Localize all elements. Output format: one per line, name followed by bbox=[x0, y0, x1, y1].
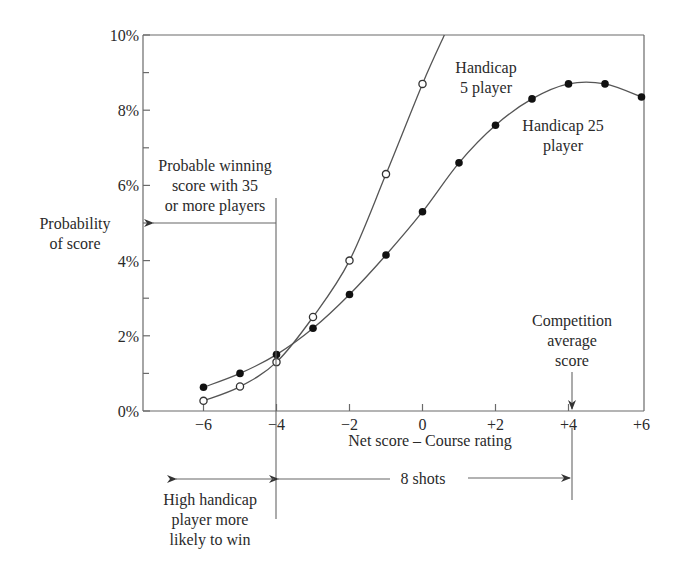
x-axis-label: Net score – Course rating bbox=[348, 432, 512, 450]
x-tick-label: +4 bbox=[560, 416, 577, 433]
handicap-5-label-line1: Handicap bbox=[455, 59, 516, 77]
y-axis-label-line2: of score bbox=[49, 235, 100, 252]
handicap-25-label-line1: Handicap 25 bbox=[522, 117, 603, 135]
high-handicap-line2: player more bbox=[172, 511, 249, 529]
high-handicap-line3: likely to win bbox=[170, 531, 251, 549]
y-ticks: 0%2%4%6%8%10% bbox=[110, 27, 150, 420]
x-tick-label: +6 bbox=[633, 416, 650, 433]
open-circle-marker-icon bbox=[419, 80, 426, 87]
filled-circle-marker-icon bbox=[382, 251, 390, 259]
filled-circle-marker-icon bbox=[309, 324, 317, 332]
probable-winning-line2: score with 35 bbox=[172, 177, 258, 194]
open-circle-marker-icon bbox=[346, 257, 353, 264]
filled-circle-marker-icon bbox=[492, 121, 500, 129]
y-tick-label: 2% bbox=[118, 328, 139, 345]
y-tick-label: 4% bbox=[118, 253, 139, 270]
open-circle-marker-icon bbox=[236, 383, 243, 390]
filled-circle-marker-icon bbox=[638, 93, 646, 101]
filled-circle-marker-icon bbox=[455, 159, 463, 167]
high-handicap-annotation: High handicap player more likely to win bbox=[163, 479, 274, 549]
open-circle-marker-icon bbox=[309, 313, 316, 320]
y-tick-label: 6% bbox=[118, 177, 139, 194]
y-tick-label: 8% bbox=[118, 102, 139, 119]
probability-chart: 0%2%4%6%8%10% −6−4−20+2+4+6 Probability … bbox=[0, 0, 683, 578]
filled-circle-marker-icon bbox=[565, 80, 573, 88]
competition-line3: score bbox=[555, 352, 589, 369]
eight-shots-annotation: 8 shots bbox=[278, 470, 570, 487]
competition-average-annotation: Competition average score bbox=[532, 312, 612, 500]
competition-line2: average bbox=[547, 332, 597, 350]
x-tick-label: −2 bbox=[341, 416, 358, 433]
filled-circle-marker-icon bbox=[200, 384, 208, 392]
x-tick-label: −6 bbox=[195, 416, 212, 433]
competition-line1: Competition bbox=[532, 312, 612, 330]
handicap-5-label-line2: 5 player bbox=[460, 79, 513, 97]
handicap-5-markers bbox=[200, 80, 426, 404]
y-tick-label: 10% bbox=[110, 27, 139, 44]
y-tick-label: 0% bbox=[118, 403, 139, 420]
probable-winning-line1: Probable winning bbox=[158, 157, 271, 175]
probable-winning-line3: or more players bbox=[165, 197, 265, 215]
probable-winning-annotation: Probable winning score with 35 or more p… bbox=[153, 157, 276, 519]
filled-circle-marker-icon bbox=[528, 95, 536, 103]
filled-circle-marker-icon bbox=[346, 291, 354, 299]
open-circle-marker-icon bbox=[382, 171, 389, 178]
handicap-25-label-line2: player bbox=[543, 137, 584, 155]
x-ticks: −6−4−20+2+4+6 bbox=[195, 404, 650, 433]
handicap-5-curve bbox=[204, 35, 445, 401]
filled-circle-marker-icon bbox=[236, 370, 244, 378]
open-circle-marker-icon bbox=[200, 397, 207, 404]
high-handicap-line1: High handicap bbox=[163, 491, 257, 509]
x-tick-label: 0 bbox=[419, 416, 427, 433]
filled-circle-marker-icon bbox=[419, 208, 427, 216]
filled-circle-marker-icon bbox=[601, 80, 609, 88]
eight-shots-label: 8 shots bbox=[401, 470, 446, 487]
x-tick-label: +2 bbox=[487, 416, 504, 433]
y-axis-label-line1: Probability bbox=[39, 215, 110, 233]
